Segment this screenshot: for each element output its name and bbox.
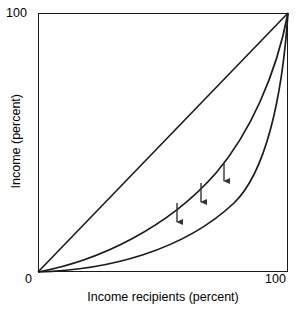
plot-canvas (38, 13, 288, 272)
y-axis-max-tick-label: 100 (6, 7, 27, 20)
x-axis-title: Income recipients (percent) (38, 291, 288, 304)
lorenz-curve-figure: 100 0 100 Income recipients (percent) In… (0, 0, 302, 312)
x-axis-max-tick-label: 100 (265, 273, 286, 286)
origin-tick-label: 0 (25, 273, 32, 286)
line-of-equality (38, 13, 288, 272)
y-axis-title: Income (percent) (10, 61, 23, 221)
